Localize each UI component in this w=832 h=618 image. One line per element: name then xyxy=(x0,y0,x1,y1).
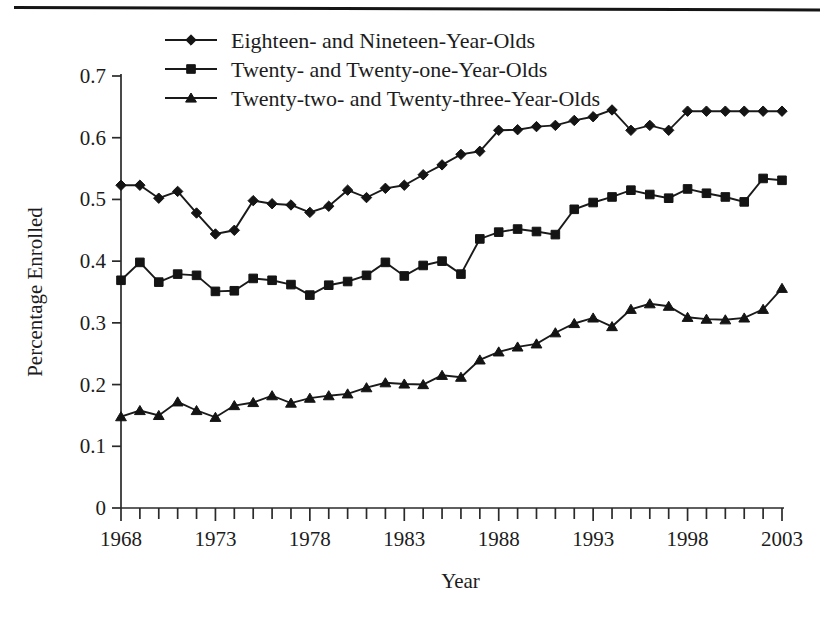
y-tick-label: 0 xyxy=(96,496,107,520)
square-marker xyxy=(702,189,711,198)
square-marker xyxy=(249,274,258,283)
square-marker xyxy=(570,205,579,214)
triangle-marker xyxy=(550,328,561,337)
x-axis-title: Year xyxy=(441,569,480,593)
square-marker xyxy=(117,276,126,285)
square-marker xyxy=(343,277,352,286)
y-tick-label: 0.5 xyxy=(80,187,106,211)
triangle-marker xyxy=(777,283,788,292)
x-tick-label: 1998 xyxy=(667,527,709,551)
diamond-marker xyxy=(456,149,466,159)
x-tick-label: 1968 xyxy=(100,527,142,551)
diamond-marker xyxy=(380,183,390,193)
x-tick-label: 1978 xyxy=(289,527,331,551)
y-tick-label: 0.3 xyxy=(80,311,106,335)
diamond-marker xyxy=(758,106,768,116)
diamond-marker xyxy=(186,35,196,45)
square-marker xyxy=(646,190,655,199)
diamond-marker xyxy=(248,195,258,205)
square-marker xyxy=(551,230,560,239)
y-tick-label: 0.4 xyxy=(80,249,107,273)
square-marker xyxy=(589,198,598,207)
x-tick-label: 1988 xyxy=(478,527,520,551)
triangle-marker xyxy=(267,391,278,400)
square-marker xyxy=(627,186,636,195)
diamond-marker xyxy=(550,120,560,130)
square-marker xyxy=(476,235,485,244)
diamond-marker xyxy=(116,180,126,190)
square-marker xyxy=(721,193,730,202)
x-tick-label: 1983 xyxy=(383,527,425,551)
square-marker xyxy=(211,287,220,296)
diamond-marker xyxy=(531,121,541,131)
diamond-marker xyxy=(720,106,730,116)
series-line-square xyxy=(121,178,782,295)
square-marker xyxy=(192,271,201,280)
square-marker xyxy=(268,276,277,285)
square-marker xyxy=(494,228,503,237)
square-marker xyxy=(306,291,315,300)
square-marker xyxy=(287,280,296,289)
diamond-marker xyxy=(645,120,655,130)
diamond-marker xyxy=(588,112,598,122)
square-marker xyxy=(513,225,522,234)
square-marker xyxy=(759,174,768,183)
square-marker xyxy=(381,258,390,267)
square-marker xyxy=(419,261,428,270)
legend-label-2: Twenty-two- and Twenty-three-Year-Olds xyxy=(231,86,600,111)
diamond-marker xyxy=(286,200,296,210)
square-marker xyxy=(400,272,409,281)
square-marker xyxy=(457,270,466,279)
diamond-marker xyxy=(229,225,239,235)
square-marker xyxy=(230,286,239,295)
y-tick-label: 0.1 xyxy=(80,434,106,458)
square-marker xyxy=(740,198,749,207)
square-marker xyxy=(683,185,692,194)
square-marker xyxy=(778,176,787,185)
diamond-marker xyxy=(305,207,315,217)
square-marker xyxy=(136,258,145,267)
y-axis-title: Percentage Enrolled xyxy=(23,207,47,377)
square-marker xyxy=(173,270,182,279)
series-3 xyxy=(116,283,788,421)
x-tick-label: 1993 xyxy=(572,527,614,551)
square-marker xyxy=(664,194,673,203)
x-axis-ticks xyxy=(121,508,782,521)
y-tick-label: 0.6 xyxy=(80,126,106,150)
diamond-marker xyxy=(739,106,749,116)
diamond-marker xyxy=(512,124,522,134)
x-tick-label: 2003 xyxy=(761,527,803,551)
square-marker xyxy=(187,65,196,74)
series-1 xyxy=(116,105,787,239)
legend: Eighteen- and Nineteen-Year-OldsTwenty- … xyxy=(165,28,600,111)
diamond-marker xyxy=(777,106,787,116)
square-marker xyxy=(438,257,447,266)
diamond-marker xyxy=(399,180,409,190)
triangle-marker xyxy=(134,405,145,414)
square-marker xyxy=(362,271,371,280)
series-line-triangle xyxy=(121,288,782,417)
diamond-marker xyxy=(418,170,428,180)
line-chart: 00.10.20.30.40.50.60.7196819731978198319… xyxy=(0,0,832,618)
y-tick-label: 0.2 xyxy=(80,373,106,397)
x-axis-labels: 19681973197819831988199319982003 xyxy=(100,527,803,551)
legend-label-1: Twenty- and Twenty-one-Year-Olds xyxy=(231,57,547,82)
x-tick-label: 1973 xyxy=(194,527,236,551)
square-marker xyxy=(532,227,541,236)
series-line-diamond xyxy=(121,110,782,234)
square-marker xyxy=(154,278,163,287)
triangle-marker xyxy=(172,397,183,406)
diamond-marker xyxy=(569,115,579,125)
diamond-marker xyxy=(267,199,277,209)
figure-container: 00.10.20.30.40.50.60.7196819731978198319… xyxy=(0,0,832,618)
square-marker xyxy=(608,193,617,202)
y-axis-ticks: 00.10.20.30.40.50.60.7 xyxy=(80,64,121,520)
diamond-marker xyxy=(701,106,711,116)
legend-label-0: Eighteen- and Nineteen-Year-Olds xyxy=(231,28,535,53)
triangle-marker xyxy=(588,313,599,322)
triangle-marker xyxy=(531,339,542,348)
diamond-marker xyxy=(437,160,447,170)
y-tick-label: 0.7 xyxy=(80,64,106,88)
triangle-marker xyxy=(191,405,202,414)
square-marker xyxy=(324,281,333,290)
